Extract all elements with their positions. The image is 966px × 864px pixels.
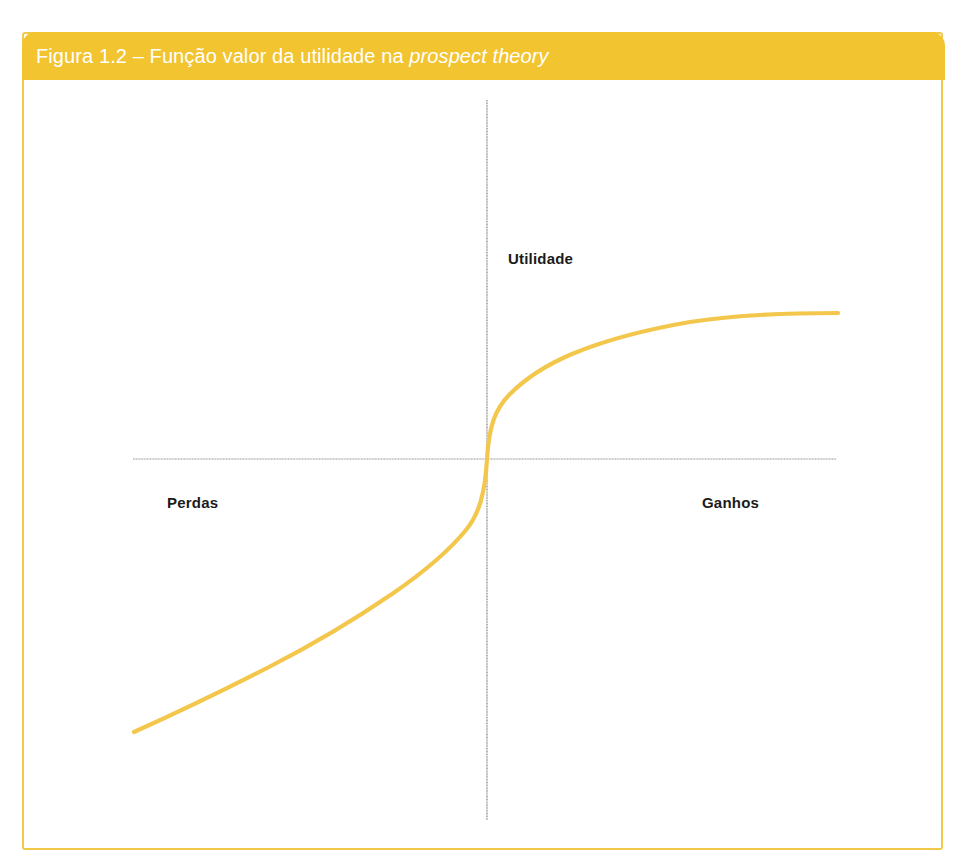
utility-value-function-chart [24,82,941,848]
figure-title-emphasis: prospect theory [409,45,548,67]
value-function-curve [134,313,838,732]
figure-title: Figura 1.2 – Função valor da utilidade n… [22,45,549,68]
x-axis-label-ganhos: Ganhos [702,494,759,511]
figure-title-prefix: Figura 1.2 – Função valor da utilidade n… [36,45,409,67]
x-axis-label-perdas: Perdas [167,494,218,511]
y-axis-label-utilidade: Utilidade [508,250,573,267]
chart-plot-area: Utilidade Perdas Ganhos [24,82,941,848]
figure-title-bar: Figura 1.2 – Função valor da utilidade n… [22,32,945,80]
figure-container: Figura 1.2 – Função valor da utilidade n… [0,0,966,864]
